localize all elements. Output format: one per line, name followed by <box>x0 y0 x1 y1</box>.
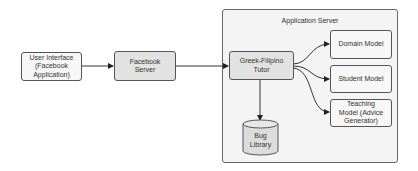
student-model-label: Student Model <box>338 75 383 84</box>
facebook-server-label-1: Facebook <box>130 58 161 67</box>
teaching-model-label-3: Generator) <box>339 117 383 126</box>
bug-library-label-1: Bug <box>243 132 278 141</box>
edge-tutor-to-teaching <box>293 68 329 112</box>
domain-model-node: Domain Model <box>330 30 392 59</box>
edge-tutor-to-domain <box>293 44 329 64</box>
teaching-model-label-2: Model (Advice <box>339 109 383 118</box>
facebook-server-label-2: Server <box>130 66 161 75</box>
tutor-node: Greek-Filipino Tutor <box>229 51 294 80</box>
teaching-model-label-1: Teaching <box>339 100 383 109</box>
bug-library-node: Bug Library <box>243 132 278 149</box>
teaching-model-node: Teaching Model (Advice Generator) <box>330 99 392 127</box>
user-interface-label-2: (Facebook <box>30 62 74 71</box>
bug-library-label-2: Library <box>243 141 278 150</box>
tutor-label-1: Greek-Filipino <box>240 57 284 66</box>
domain-model-label: Domain Model <box>338 40 383 49</box>
edge-tutor-to-student <box>293 66 329 79</box>
tutor-label-2: Tutor <box>240 66 284 75</box>
student-model-node: Student Model <box>330 65 392 93</box>
user-interface-label-3: Application) <box>30 71 74 80</box>
user-interface-node: User Interface (Facebook Application) <box>21 52 82 81</box>
facebook-server-node: Facebook Server <box>114 51 176 81</box>
user-interface-label-1: User Interface <box>30 54 74 63</box>
